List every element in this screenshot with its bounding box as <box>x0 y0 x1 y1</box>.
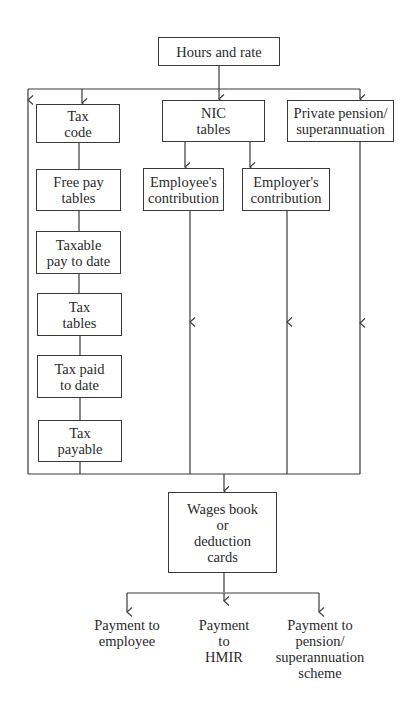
payment-to-hmir-label: Payment to HMIR <box>194 617 254 665</box>
hours-and-rate-box: Hours and rate <box>158 37 280 66</box>
employer-contribution-box: Employer's contribution <box>242 168 330 211</box>
taxable-pay-to-date-box: Taxable pay to date <box>36 231 121 274</box>
tax-code-box: Tax code <box>36 104 120 143</box>
free-pay-tables-box: Free pay tables <box>36 169 121 211</box>
tax-tables-box: Tax tables <box>37 293 122 336</box>
tax-payable-box: Tax payable <box>38 420 122 462</box>
nic-tables-box: NIC tables <box>162 100 265 142</box>
employee-contribution-box: Employee's contribution <box>143 168 224 211</box>
private-pension-box: Private pension/ superannuation <box>287 100 394 142</box>
payment-to-employee-label: Payment to employee <box>87 617 167 649</box>
wages-book-box: Wages book or deduction cards <box>168 492 277 573</box>
payment-to-pension-label: Payment to pension/ superannuation schem… <box>268 617 372 681</box>
tax-paid-to-date-box: Tax paid to date <box>37 355 122 398</box>
